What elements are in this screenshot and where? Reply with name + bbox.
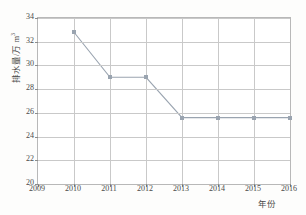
x-axis-tick-label: 2014 (202, 185, 232, 193)
y-axis-tick-labels: 3432302826242220 (17, 0, 34, 215)
y-axis-tick-label: 22 (18, 155, 34, 163)
y-axis-tick-mark (35, 89, 38, 90)
gridline-vertical (254, 18, 255, 184)
x-axis-title: 年份 (258, 197, 276, 209)
y-axis-title-superscript: 3 (10, 33, 16, 36)
data-point-marker (144, 75, 148, 79)
y-axis-tick-mark (35, 18, 38, 19)
data-point-marker (72, 30, 76, 34)
data-point-marker (180, 116, 184, 120)
gridline-horizontal (38, 42, 290, 43)
gridline-horizontal (38, 160, 290, 161)
gridline-horizontal (38, 89, 290, 90)
plot-area (37, 17, 291, 185)
y-axis-tick-label: 34 (18, 13, 34, 21)
gridline-vertical (110, 18, 111, 184)
x-axis-tick-label: 2013 (166, 185, 196, 193)
gridline-vertical (74, 18, 75, 184)
y-axis-tick-mark (35, 65, 38, 66)
data-point-marker (108, 75, 112, 79)
x-axis-tick-label: 2016 (274, 185, 304, 193)
gridline-vertical (218, 18, 219, 184)
gridline-horizontal (38, 137, 290, 138)
y-axis-tick-mark (35, 160, 38, 161)
y-axis-tick-mark (35, 137, 38, 138)
x-axis-tick-label: 2009 (22, 185, 52, 193)
y-axis-tick-mark (35, 42, 38, 43)
y-axis-tick-mark (35, 113, 38, 114)
y-axis-tick-label: 28 (18, 84, 34, 92)
gridline-horizontal (38, 113, 290, 114)
y-axis-tick-label: 24 (18, 132, 34, 140)
gridline-horizontal (38, 18, 290, 19)
y-axis-tick-label: 32 (18, 37, 34, 45)
gridline-horizontal (38, 65, 290, 66)
y-axis-tick-label: 30 (18, 60, 34, 68)
gridline-vertical (146, 18, 147, 184)
x-axis-tick-label: 2012 (130, 185, 160, 193)
data-point-marker (252, 116, 256, 120)
data-point-marker (216, 116, 220, 120)
chart-figure: 排水量/万 m3 3432302826242220 20092010201120… (0, 0, 306, 215)
data-point-marker (288, 116, 292, 120)
x-axis-tick-label: 2011 (94, 185, 124, 193)
y-axis-tick-label: 26 (18, 108, 34, 116)
gridline-vertical (182, 18, 183, 184)
x-axis-tick-label: 2010 (58, 185, 88, 193)
x-axis-tick-label: 2015 (238, 185, 268, 193)
